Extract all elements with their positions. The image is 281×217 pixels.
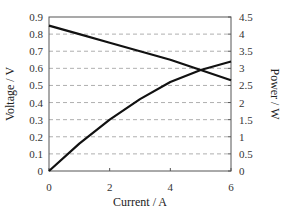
series-lines [49,26,231,171]
voltage-power-chart: 00.10.20.30.40.50.60.70.80.9 00.511.522.… [0,0,281,217]
y2-tick-label: 2.5 [239,79,253,91]
y-axis-label: Voltage / V [3,67,17,122]
y2-tick-label: 3.5 [239,45,253,57]
x-tick-label: 4 [168,181,174,193]
y-axis-left-ticks: 00.10.20.30.40.50.60.70.80.9 [29,11,43,177]
y-tick-label: 0.6 [29,62,43,74]
x-tick-label: 2 [107,181,113,193]
y-tick-label: 0.1 [29,148,43,160]
y2-tick-label: 4.5 [239,11,253,23]
y2-tick-label: 1 [239,131,245,143]
y-tick-label: 0.7 [29,45,43,57]
y2-tick-label: 0.5 [239,148,253,160]
series-power-line [49,62,231,172]
x-axis-label: Current / A [113,195,167,209]
y-tick-label: 0.3 [29,114,43,126]
y2-tick-label: 2 [239,97,245,109]
y-axis-right-ticks: 00.511.522.533.544.5 [228,11,253,177]
x-axis-ticks: 0246 [46,168,234,193]
y-tick-label: 0 [38,165,44,177]
y-tick-label: 0.5 [29,79,43,91]
y-tick-label: 0.9 [29,11,43,23]
y2-tick-label: 4 [239,28,245,40]
y2-tick-label: 0 [239,165,245,177]
x-tick-label: 6 [228,181,234,193]
x-tick-label: 0 [46,181,52,193]
y-tick-label: 0.8 [29,28,43,40]
y2-tick-label: 1.5 [239,114,253,126]
y2-axis-label: Power / W [268,68,281,120]
y-tick-label: 0.2 [29,131,43,143]
plot-area [49,17,231,171]
y-tick-label: 0.4 [29,97,43,109]
y2-tick-label: 3 [239,62,245,74]
